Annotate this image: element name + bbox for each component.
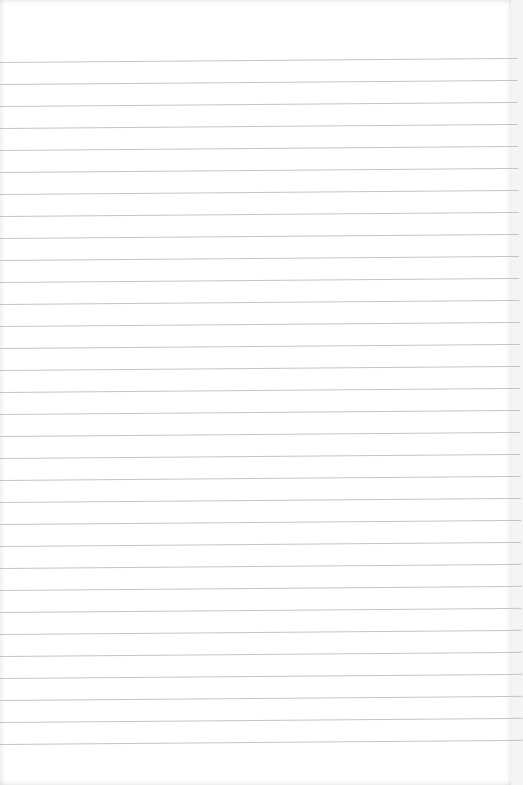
ruled-line	[0, 234, 519, 239]
ruled-line	[0, 520, 521, 525]
ruled-line	[0, 454, 521, 459]
ruled-line	[0, 718, 523, 723]
ruled-line	[0, 740, 523, 745]
ruled-line	[0, 344, 520, 349]
ruled-line	[0, 102, 518, 107]
ruled-line	[0, 564, 521, 569]
ruled-line	[0, 124, 518, 129]
ruled-line	[0, 432, 520, 437]
ruled-line	[0, 58, 517, 63]
ruled-line	[0, 498, 521, 503]
ruled-line	[0, 388, 520, 393]
ruled-line	[0, 542, 521, 547]
ruled-line	[0, 366, 520, 371]
ruled-line	[0, 322, 520, 327]
ruled-line	[0, 652, 522, 657]
ruled-line	[0, 146, 518, 151]
ruled-lines	[0, 0, 523, 785]
ruled-line	[0, 476, 521, 481]
ruled-line	[0, 586, 522, 591]
ruled-line	[0, 674, 522, 679]
ruled-line	[0, 80, 518, 85]
ruled-line	[0, 608, 522, 613]
ruled-line	[0, 410, 520, 415]
ruled-line	[0, 630, 522, 635]
ruled-line	[0, 168, 518, 173]
ruled-line	[0, 300, 519, 305]
ruled-line	[0, 212, 519, 217]
ruled-line	[0, 696, 522, 701]
ruled-line	[0, 190, 519, 195]
ruled-line	[0, 256, 519, 261]
ruled-line	[0, 278, 519, 283]
